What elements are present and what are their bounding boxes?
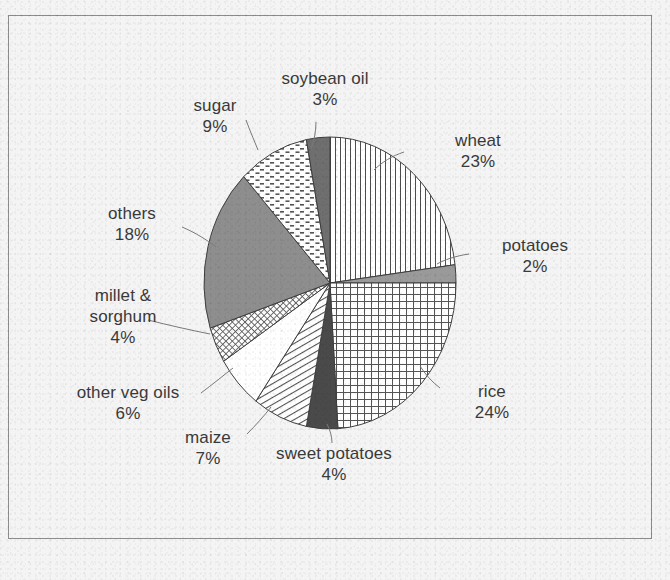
label-maize-name: maize (185, 428, 231, 447)
label-sweet-potatoes-name: sweet potatoes (276, 444, 392, 463)
label-wheat-pct: 23% (418, 151, 538, 172)
label-sugar: sugar 9% (160, 95, 270, 137)
label-sweet-potatoes: sweet potatoes 4% (248, 443, 420, 485)
label-maize: maize 7% (158, 427, 258, 469)
label-others-pct: 18% (72, 224, 192, 245)
label-millet-sorghum-pct: 4% (58, 327, 188, 348)
label-others-name: others (108, 204, 156, 223)
label-sweet-potatoes-pct: 4% (248, 464, 420, 485)
label-potatoes-name: potatoes (502, 236, 568, 255)
pie-slices (204, 137, 456, 429)
label-rice: rice 24% (442, 381, 542, 423)
chart-page: soybean oil 3% sugar 9% wheat 23% potato… (0, 0, 670, 580)
label-millet-sorghum-line1: millet & (95, 286, 152, 305)
label-others: others 18% (72, 203, 192, 245)
label-sugar-name: sugar (193, 96, 236, 115)
label-wheat-name: wheat (455, 131, 501, 150)
label-soybean-oil-pct: 3% (250, 89, 400, 110)
label-sugar-pct: 9% (160, 116, 270, 137)
label-maize-pct: 7% (158, 448, 258, 469)
label-millet-sorghum: millet & sorghum 4% (58, 285, 188, 348)
label-soybean-oil: soybean oil 3% (250, 68, 400, 110)
label-other-veg-oils: other veg oils 6% (48, 382, 208, 424)
label-wheat: wheat 23% (418, 130, 538, 172)
label-other-veg-oils-pct: 6% (48, 403, 208, 424)
label-rice-pct: 24% (442, 402, 542, 423)
label-potatoes: potatoes 2% (470, 235, 600, 277)
label-millet-sorghum-line2: sorghum (58, 306, 188, 327)
label-potatoes-pct: 2% (470, 256, 600, 277)
label-soybean-oil-name: soybean oil (281, 69, 368, 88)
label-other-veg-oils-name: other veg oils (77, 383, 180, 402)
label-rice-name: rice (478, 382, 506, 401)
pie-slice-rice[interactable] (330, 283, 456, 429)
